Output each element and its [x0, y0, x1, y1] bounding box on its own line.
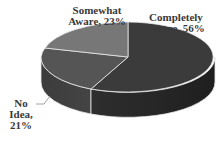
- label-completely-aware: Completely Aware, 56%: [140, 12, 212, 34]
- label-somewhat-aware: Somewhat Aware, 23%: [64, 5, 130, 27]
- label-no-idea: No Idea, 21%: [4, 98, 38, 131]
- label-somewhat-aware-line2: Aware, 23%: [64, 16, 130, 27]
- leader-line-no-idea: [36, 96, 50, 104]
- label-completely-aware-line2: Aware, 56%: [140, 23, 212, 34]
- label-no-idea-line3: 21%: [4, 120, 38, 131]
